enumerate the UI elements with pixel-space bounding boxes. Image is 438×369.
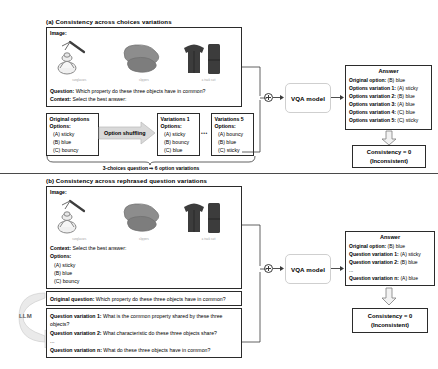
thumbnail-caption: sunglasses [50,79,108,82]
answer-title: Answer [346,68,431,74]
tracksuit-thumbnail: a track suit [180,197,238,241]
section-a-title: (a) Consistency across choices variation… [46,18,172,25]
answer-line: Options variation 3: (A) blue [349,100,428,108]
section-a-connectors [240,60,276,160]
question-variation-row: Question variation 2: What characteristi… [50,330,217,338]
section-b-connectors [240,220,276,350]
consistency-text: Consistency = 0 (Inconsistent) [368,312,412,329]
answer-line-value: (B) blue [388,77,406,83]
question-row: Question: Which property do these three … [50,88,205,96]
answer-line-value: (C) sticky [397,117,418,123]
slippers-thumbnail: slippers [115,38,173,82]
options-label: Options: [50,253,71,261]
answer-line: Question variation 2: (B) blue [349,258,431,266]
consistency-text: Consistency = 0 (Inconsistent) [367,148,411,165]
variations-1-option-b: (B) bouncy [164,139,189,147]
answer-line-label: Options variation 1: [349,85,396,91]
thumbnail-caption: a track suit [180,238,238,241]
original-option-a: (A) sticky [53,131,74,139]
slippers-thumbnail: slippers [115,197,173,241]
thumbnail-caption: a track suit [180,79,238,82]
consistency-value: Consistency = 0 [368,312,412,320]
options-brace [46,156,256,165]
original-option-b: (B) blue [53,139,71,147]
answer-line-label: Options variation 2: [349,93,396,99]
image-label: Image: [50,189,67,197]
answer-line-value: (A) blue [397,101,415,107]
thumbnail-caption: slippers [115,238,173,241]
context-row: Context: Select the best answer: [50,96,126,104]
vqa-model-box[interactable]: VQA model [285,254,331,284]
answer-to-consistency-arrow [381,131,397,146]
answer-line: Original option: (B) blue [349,76,428,84]
question-label: Question: [50,88,74,94]
sunglasses-thumbnail: sunglasses [50,197,108,241]
answer-line-label: Options variation 4: [349,109,396,115]
question-variation-text: What do these three objects have in comm… [103,347,210,353]
variations-1-box: Variations 1 Options: (A) sticky (B) bou… [157,113,200,156]
section-a-image-question-card: Image: sunglasses [46,27,242,107]
answer-line-label: Options variation 5: [349,117,396,123]
sunglasses-thumbnail: sunglasses [50,38,108,82]
variations-5-option-b: (B) blue [218,139,236,147]
vqa-model-box[interactable]: VQA model [285,83,331,113]
consistency-box: Consistency = 0 (Inconsistent) [352,145,426,168]
variations-5-option-c: (C) sticky [218,147,240,155]
context-label: Context: [50,245,71,251]
original-question-text: Which property do these three objects ha… [96,296,226,302]
llm-label: LLM [19,313,32,319]
merge-to-model-arrow [273,265,285,273]
answer-line: Options variation 1: (A) sticky [349,84,428,92]
original-options-subtitle: Options: [50,123,71,131]
tracksuit-thumbnail: a track suit [180,38,238,82]
option-c: (C) bouncy [54,278,79,286]
answer-line-value: (A) blue [400,275,418,281]
section-a-footnote: 3-choices question ⇒ 6 option variations [46,165,256,171]
section-b-image-context-card: Image: sunglasses [46,186,242,289]
thumbnail-caption: slippers [115,79,173,82]
answer-line-ellipsis: ... [349,266,431,274]
answer-title: Answer [346,234,434,240]
question-variations-box: Question variation 1: What is the common… [46,308,242,358]
answer-line: Options variation 5: (C) sticky [349,116,428,124]
option-shuffling-arrow: Option shuffling [99,122,155,144]
consistency-status: (Inconsistent) [367,157,411,165]
context-text: Select the best answer: [73,96,127,102]
plus-circle-icon [264,264,273,273]
question-variation-ellipsis: ... [50,338,54,346]
option-a: (A) sticky [54,262,75,270]
consistency-box: Consistency = 0 (Inconsistent) [352,308,428,333]
answer-line-value: (A) sticky [400,251,421,257]
answer-line: Original option: (B) blue [349,242,431,250]
section-a: (a) Consistency across choices variation… [0,0,438,176]
model-to-answer-arrow [331,265,345,273]
question-variation-label: Question variation 2: [50,330,102,336]
option-shuffling-label: Option shuffling [104,129,146,137]
answer-line: Options variation 4: (C) blue [349,108,428,116]
answer-line-label: Question variation n: [349,275,399,281]
variations-1-option-a: (A) sticky [164,131,185,139]
thumbnail-caption: sunglasses [50,238,108,241]
question-variation-row: Question variation n: What do these thre… [50,347,210,355]
answer-to-consistency-arrow [381,288,397,306]
answer-line: Question variation 1: (A) sticky [349,250,431,258]
image-label: Image: [50,30,67,38]
context-text: Select the best answer: [73,245,127,251]
model-to-answer-arrow [331,94,345,102]
answer-line-label: Options variation 3: [349,101,396,107]
original-question-label: Original question: [50,296,94,302]
section-b-title: (b) Consistency across rephrased questio… [46,177,207,184]
consistency-value: Consistency = 0 [367,148,411,156]
question-variation-label: Question variation n: [50,347,102,353]
variations-5-subtitle: Options: [215,123,236,131]
section-b: (b) Consistency across rephrased questio… [0,176,438,369]
original-question-row: Original question: Which property do the… [50,296,226,304]
question-text: Which property do these three objects ha… [76,88,206,94]
original-question-box: Original question: Which property do the… [46,291,242,306]
answer-line-label: Original option: [349,77,386,83]
variations-1-option-c: (C) blue [164,147,182,155]
answer-line-value: (C) blue [397,109,415,115]
answer-box: Answer Original option: (B) blue Options… [345,65,432,130]
image-thumbnail-strip: sunglasses slippers [47,197,241,241]
answer-line-label: Original option: [349,243,386,249]
